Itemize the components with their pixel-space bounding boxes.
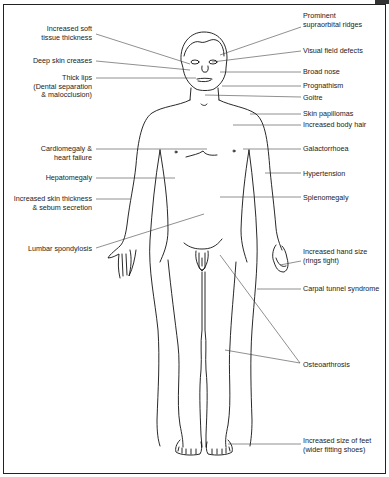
goitre-leader-line	[205, 95, 301, 97]
right-leg-inner	[205, 272, 207, 447]
torso-left	[150, 150, 160, 446]
label-soft-tissue: Increased soft tissue thickness	[10, 25, 92, 42]
label-galactorrhoea: Galactorrhoea	[303, 145, 349, 154]
label-osteoarthrosis: Osteoarthrosis	[303, 361, 350, 370]
left-hand	[108, 246, 136, 278]
label-lumbar: Lumbar spondylosis	[10, 245, 92, 254]
osteoarthrosis-leader-line	[225, 350, 300, 363]
supraorbital-leader-line	[220, 27, 301, 55]
left-leg-outer	[168, 260, 183, 447]
left-nipple	[175, 151, 177, 153]
left-toes	[178, 447, 196, 454]
visual-field-leader-line	[212, 51, 301, 62]
skin-creases-leader-line	[96, 61, 190, 70]
label-broad-nose: Broad nose	[303, 68, 340, 77]
hand-size-leader-line	[280, 261, 301, 265]
label-supraorbital: Prominent supraorbital ridges	[303, 12, 362, 29]
neck-left	[190, 88, 191, 100]
nose	[202, 66, 209, 72]
neck-right	[218, 88, 219, 100]
left-side-outline	[120, 100, 190, 246]
torso-right-inner	[241, 150, 249, 262]
hairline	[184, 40, 224, 56]
label-visual-field: Visual field defects	[303, 47, 363, 56]
groin-line	[184, 239, 222, 249]
left-leg-inner	[200, 272, 202, 447]
genitals	[196, 251, 209, 271]
label-hepatomegaly: Hepatomegaly	[10, 174, 92, 183]
label-body-hair: Increased body hair	[303, 121, 366, 130]
right-nipple	[233, 150, 235, 152]
label-skin-creases: Deep skin creases	[10, 57, 92, 66]
right-leg-outer	[226, 262, 236, 447]
chest-line	[186, 151, 217, 157]
label-thick-lips: Thick lips (Dental separation & malocclu…	[10, 74, 92, 100]
left-eye	[191, 60, 199, 64]
right-hand	[273, 245, 288, 272]
right-toes	[212, 447, 230, 454]
right-foot	[206, 440, 232, 455]
mouth	[197, 78, 212, 81]
label-skin-papillomas: Skin papillomas	[303, 110, 353, 119]
label-skin-thickness: Increased skin thickness & sebum secreti…	[3, 195, 92, 212]
label-hand-size: Increased hand size (rings tight)	[303, 248, 367, 265]
label-splenomegaly: Splenomegaly	[303, 194, 349, 203]
label-feet: Increased size of feet (wider fitting sh…	[303, 437, 371, 454]
torso-right	[249, 150, 257, 446]
label-cardiomegaly: Cardiomegaly & heart failure	[10, 145, 92, 162]
right-side-outline	[219, 100, 282, 250]
neck-notch	[201, 104, 207, 106]
label-prognathism: Prognathism	[303, 82, 343, 91]
label-goitre: Goitre	[303, 94, 323, 103]
soft-tissue-leader-line	[96, 34, 190, 64]
torso-left-inner	[160, 150, 168, 262]
label-carpal-tunnel: Carpal tunnel syndrome	[303, 285, 379, 294]
label-hypertension: Hypertension	[303, 170, 345, 179]
left-foot	[176, 440, 202, 455]
